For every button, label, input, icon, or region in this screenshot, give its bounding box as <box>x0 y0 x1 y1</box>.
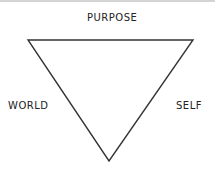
label-purpose: PURPOSE <box>87 13 137 23</box>
inverted-triangle <box>28 40 193 161</box>
triangle-diagram <box>0 0 215 172</box>
label-world: WORLD <box>8 101 48 111</box>
label-self: SELF <box>176 101 202 111</box>
